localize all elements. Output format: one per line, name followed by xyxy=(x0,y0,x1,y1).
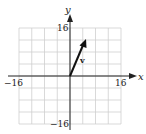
y-axis-label: y xyxy=(64,4,71,15)
x-min-tick-label: −16 xyxy=(4,78,23,88)
vector-plot: x y −16 16 16 −16 v xyxy=(0,0,146,134)
y-max-tick-label: 16 xyxy=(57,23,69,33)
x-max-tick-label: 16 xyxy=(115,78,127,88)
x-axis-arrow-icon xyxy=(129,73,137,79)
vector-label: v xyxy=(79,55,85,65)
y-min-tick-label: −16 xyxy=(50,119,69,129)
x-axis-label: x xyxy=(138,71,144,82)
y-axis-arrow-icon xyxy=(67,14,73,22)
